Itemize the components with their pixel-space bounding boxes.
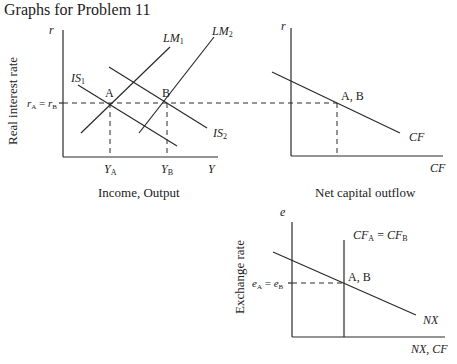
- cf-point-label: A, B: [341, 89, 364, 103]
- exchange-e-symbol: e: [280, 205, 286, 219]
- lm2-curve: [139, 37, 214, 133]
- is2-curve: [109, 67, 207, 128]
- cf-x-axis-label: Net capital outflow: [315, 185, 416, 200]
- cf-x-symbol: CF: [430, 161, 446, 175]
- islm-x-axis-label: Income, Output: [98, 185, 180, 200]
- point-a-label: A: [105, 86, 114, 100]
- diagram-canvas: r Real interest rate LM1 LM2 IS1 IS2 A B…: [0, 0, 457, 364]
- ya-label: YA: [104, 162, 117, 177]
- is2-label: IS2: [212, 126, 227, 141]
- islm-r-symbol: r: [49, 23, 54, 37]
- e-equality-label: eA = eB: [252, 277, 284, 291]
- is1-label: IS1: [70, 71, 85, 86]
- nx-curve-label: NX: [422, 313, 439, 327]
- point-b-label: B: [162, 86, 170, 100]
- exchange-point-label: A, B: [348, 270, 371, 284]
- exchange-y-axis-label: Exchange rate: [232, 240, 247, 314]
- exchange-x-symbol: NX, CF: [410, 342, 448, 356]
- lm1-curve: [81, 47, 170, 133]
- cf-curve-label: CF: [409, 130, 425, 144]
- r-equality-label: rA = rB: [27, 97, 57, 111]
- islm-y-symbol: Y: [208, 162, 216, 176]
- cf-r-symbol: r: [281, 19, 286, 33]
- lm2-label: LM2: [211, 24, 233, 39]
- islm-y-axis-label: Real interest rate: [5, 57, 20, 145]
- cf-equality-label: CFA = CFB: [353, 228, 408, 243]
- yb-label: YB: [161, 162, 173, 177]
- lm1-label: LM1: [162, 31, 184, 46]
